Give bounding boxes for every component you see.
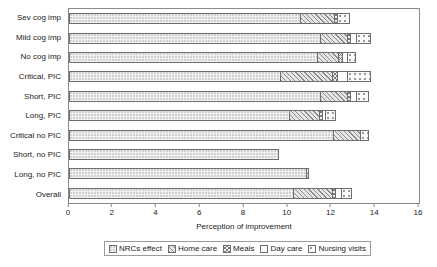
- x-axis-tick-label: 6: [197, 208, 201, 218]
- legend-swatch-nursing-visits: [308, 245, 316, 253]
- legend-label: Day care: [270, 244, 302, 253]
- bar-row: [69, 145, 419, 164]
- x-axis-tick-label: 12: [326, 208, 335, 218]
- x-axis-tick-label: 4: [153, 208, 157, 218]
- bar-segment-nursing-visits: [356, 33, 371, 44]
- bar-segment-home-care: [289, 110, 320, 121]
- bar-row: [69, 106, 419, 125]
- tick-mark: [111, 204, 112, 207]
- bar-row: [69, 28, 419, 47]
- bar-row: [69, 67, 419, 86]
- value-axis: 0246810121416: [68, 204, 420, 220]
- tick-mark: [286, 204, 287, 207]
- x-axis-tick: 14: [370, 204, 379, 218]
- category-label: Short, PIC: [0, 86, 65, 106]
- category-label: No cog imp: [0, 47, 65, 67]
- bar-segment-home-care: [293, 188, 332, 199]
- bar-segment-nrcs-effect: [69, 188, 294, 199]
- bar-row: [69, 164, 419, 183]
- stacked-bar: [69, 71, 371, 82]
- category-label: Short, no PIC: [0, 145, 65, 165]
- category-axis: Sev cog impMild cog impNo cog impCritica…: [0, 8, 65, 204]
- legend-item-nursing-visits: Nursing visits: [308, 244, 366, 253]
- category-label: Long, no PIC: [0, 165, 65, 185]
- x-axis-tick: 8: [241, 204, 245, 218]
- stacked-bar: [69, 168, 309, 179]
- x-axis-tick-label: 8: [241, 208, 245, 218]
- bar-row: [69, 87, 419, 106]
- legend-swatch-home-care: [168, 245, 176, 253]
- category-label: Sev cog imp: [0, 8, 65, 28]
- bar-row: [69, 125, 419, 144]
- x-axis-tick-label: 0: [66, 208, 70, 218]
- bar-segment-nursing-visits: [341, 188, 352, 199]
- tick-mark: [67, 204, 68, 207]
- bar-segment-nursing-visits: [347, 52, 356, 63]
- bar-segment-nrcs-effect: [69, 110, 290, 121]
- x-axis-tick: 4: [153, 204, 157, 218]
- bar-segment-nursing-visits: [337, 13, 350, 24]
- tick-mark: [155, 204, 156, 207]
- legend-swatch-meals: [223, 245, 231, 253]
- stacked-bar: [69, 33, 371, 44]
- bar-segment-home-care: [300, 13, 335, 24]
- bar-row: [69, 9, 419, 28]
- stacked-bar: [69, 52, 356, 63]
- bar-segment-nursing-visits: [347, 71, 371, 82]
- bar-row: [69, 48, 419, 67]
- x-axis-tick: 16: [414, 204, 423, 218]
- bar-segment-nursing-visits: [356, 91, 369, 102]
- bar-segment-nrcs-effect: [69, 71, 281, 82]
- stacked-bar: [69, 130, 369, 141]
- x-axis-tick: 10: [282, 204, 291, 218]
- stacked-bar: [69, 149, 279, 160]
- legend-item-home-care: Home care: [168, 244, 217, 253]
- legend-item-day-care: Day care: [260, 244, 302, 253]
- category-label: Overall: [0, 184, 65, 204]
- stacked-bar: [69, 110, 336, 121]
- bar-segment-nrcs-effect: [69, 130, 334, 141]
- legend-label: NRCs effect: [119, 244, 162, 253]
- x-axis-tick-label: 10: [282, 208, 291, 218]
- stacked-bar: [69, 91, 369, 102]
- x-axis-title: Perception of improvement: [68, 222, 420, 231]
- legend-label: Home care: [178, 244, 217, 253]
- legend-label: Nursing visits: [318, 244, 366, 253]
- stacked-bar-chart: Sev cog impMild cog impNo cog impCritica…: [0, 0, 437, 267]
- bar-segment-nrcs-effect: [69, 149, 279, 160]
- bar-segment-home-care: [320, 91, 348, 102]
- legend-swatch-day-care: [260, 245, 268, 253]
- legend-label: Meals: [233, 244, 254, 253]
- x-axis-tick: 6: [197, 204, 201, 218]
- bar-segment-nursing-visits: [325, 110, 336, 121]
- legend-swatch-nrcs-effect: [109, 245, 117, 253]
- x-axis-tick-label: 2: [110, 208, 114, 218]
- category-label: Mild cog imp: [0, 28, 65, 48]
- x-axis-tick: 0: [66, 204, 70, 218]
- tick-mark: [418, 204, 419, 207]
- tick-mark: [242, 204, 243, 207]
- tick-mark: [199, 204, 200, 207]
- bar-segment-nrcs-effect: [69, 13, 301, 24]
- category-label: Critical no PIC: [0, 126, 65, 146]
- stacked-bar: [69, 188, 352, 199]
- x-axis-tick: 2: [110, 204, 114, 218]
- bar-segment-nursing-visits: [360, 130, 369, 141]
- bar-row: [69, 184, 419, 203]
- x-axis-tick-label: 14: [370, 208, 379, 218]
- x-axis-tick: 12: [326, 204, 335, 218]
- bar-segment-home-care: [280, 71, 333, 82]
- legend-item-meals: Meals: [223, 244, 254, 253]
- bar-segment-home-care: [317, 52, 339, 63]
- x-axis-tick-label: 16: [414, 208, 423, 218]
- tick-mark: [374, 204, 375, 207]
- bar-segment-home-care: [306, 168, 308, 179]
- bar-segment-nrcs-effect: [69, 91, 321, 102]
- bar-segment-nrcs-effect: [69, 33, 321, 44]
- bars-layer: [69, 9, 419, 203]
- bar-segment-home-care: [320, 33, 348, 44]
- category-label: Long, PIC: [0, 106, 65, 126]
- stacked-bar: [69, 13, 350, 24]
- chart-legend: NRCs effectHome careMealsDay careNursing…: [104, 241, 371, 256]
- bar-segment-nrcs-effect: [69, 52, 318, 63]
